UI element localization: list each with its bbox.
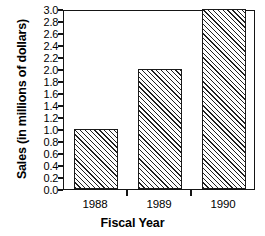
bar [138,69,183,189]
x-axis-tick-label: 1990 [193,198,253,210]
y-axis-tick-mark [58,129,63,131]
y-axis-tick-mark [58,21,63,23]
y-axis-title: Sales (in millions of dollars) [15,1,29,197]
y-axis-tick-label: 0.6 [32,149,58,160]
y-axis-tick-mark [58,45,63,47]
y-axis-tick-mark [58,69,63,71]
y-axis-tick-label: 2.4 [32,41,58,52]
x-axis-title: Fiscal Year [0,216,265,230]
y-axis-tick-labels: 3.02.82.62.42.22.01.81.61.41.21.00.80.60… [30,0,58,236]
x-axis-tick-label: 1989 [129,198,189,210]
y-axis-tick-label: 2.6 [32,29,58,40]
y-axis-tick-mark [58,93,63,95]
y-axis-tick-mark [58,81,63,83]
y-axis-tick-label: 2.0 [32,65,58,76]
y-axis-tick-mark [58,9,63,11]
y-axis-tick-label: 0.4 [32,161,58,172]
y-axis-tick-mark [58,141,63,143]
y-axis-tick-label: 2.2 [32,53,58,64]
bar [74,129,119,189]
y-axis-tick-mark [58,165,63,167]
y-axis-tick-label: 1.8 [32,77,58,88]
y-axis-tick-label: 1.0 [32,125,58,136]
x-axis-tick-mark [126,190,128,196]
y-axis-tick-mark [58,153,63,155]
x-axis-tick-mark [190,190,192,196]
x-axis-tick-label: 1988 [65,198,125,210]
y-axis-tick-label: 1.2 [32,113,58,124]
y-axis-tick-mark [58,33,63,35]
y-axis-tick-label: 1.4 [32,101,58,112]
y-axis-tick-mark [58,177,63,179]
y-axis-tick-mark [58,189,63,191]
y-axis-tick-label: 2.8 [32,17,58,28]
y-axis-tick-label: 0.0 [32,185,58,196]
plot-area [63,10,255,190]
y-axis-tick-label: 3.0 [32,5,58,16]
y-axis-tick-label: 0.2 [32,173,58,184]
y-axis-tick-label: 1.6 [32,89,58,100]
bar [202,9,247,189]
y-axis-tick-mark [58,117,63,119]
y-axis-tick-mark [58,105,63,107]
bar-chart: Sales (in millions of dollars) 3.02.82.6… [0,0,265,236]
y-axis-tick-label: 0.8 [32,137,58,148]
y-axis-tick-mark [58,57,63,59]
